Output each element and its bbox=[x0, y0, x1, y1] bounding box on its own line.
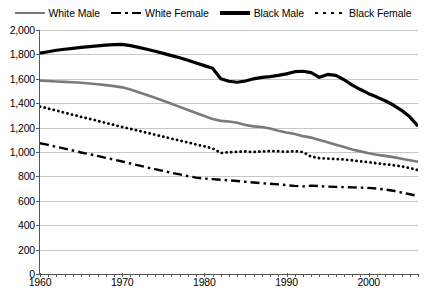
line-chart: White Male White Female Black Male Black… bbox=[0, 0, 426, 299]
x-axis-tick bbox=[56, 274, 57, 277]
legend-label-white-male: White Male bbox=[49, 8, 101, 19]
legend-swatch-black-female bbox=[315, 8, 345, 18]
x-axis-tick bbox=[311, 274, 312, 277]
x-axis-tick bbox=[147, 274, 148, 277]
x-axis-tick bbox=[155, 274, 156, 277]
y-axis-tick-label: 1,000 bbox=[0, 147, 35, 157]
x-axis-tick bbox=[254, 274, 255, 277]
legend-item-black-male[interactable]: Black Male bbox=[220, 8, 304, 19]
x-axis-tick bbox=[229, 274, 230, 277]
x-axis-tick bbox=[139, 274, 140, 277]
x-axis-tick bbox=[163, 274, 164, 277]
x-axis-tick bbox=[81, 274, 82, 277]
x-axis-tick-label: 1990 bbox=[275, 277, 298, 288]
legend-swatch-white-male bbox=[15, 8, 45, 18]
x-axis-tick-label: 1960 bbox=[29, 277, 52, 288]
x-axis-tick-label: 1970 bbox=[111, 277, 134, 288]
x-axis-tick bbox=[336, 274, 337, 277]
x-axis-tick bbox=[319, 274, 320, 277]
x-axis-tick-label: 1980 bbox=[193, 277, 216, 288]
x-axis-tick bbox=[171, 274, 172, 277]
x-axis-tick bbox=[410, 274, 411, 277]
x-axis-tick bbox=[245, 274, 246, 277]
chart-legend: White Male White Female Black Male Black… bbox=[0, 4, 426, 22]
x-axis-tick bbox=[73, 274, 74, 277]
x-axis-tick bbox=[303, 274, 304, 277]
y-axis-tick-label: 600 bbox=[0, 196, 35, 206]
x-axis-tick bbox=[385, 274, 386, 277]
x-axis-tick bbox=[65, 274, 66, 277]
x-axis-tick bbox=[237, 274, 238, 277]
x-axis-tick bbox=[188, 274, 189, 277]
y-axis-labels: 02004006008001,0001,2001,4001,6001,8002,… bbox=[0, 30, 426, 274]
x-axis-tick bbox=[418, 274, 419, 277]
x-axis-tick bbox=[89, 274, 90, 277]
x-axis-tick bbox=[180, 274, 181, 277]
legend-item-white-male[interactable]: White Male bbox=[15, 8, 101, 19]
x-axis-tick bbox=[270, 274, 271, 277]
x-axis-tick bbox=[393, 274, 394, 277]
y-axis-tick-label: 1,600 bbox=[0, 74, 35, 84]
legend-swatch-black-male bbox=[220, 8, 250, 18]
y-axis-tick-label: 200 bbox=[0, 245, 35, 255]
y-axis-tick-label: 1,800 bbox=[0, 49, 35, 59]
legend-swatch-white-female bbox=[111, 8, 141, 18]
legend-label-white-female: White Female bbox=[145, 8, 209, 19]
x-axis-tick bbox=[344, 274, 345, 277]
y-axis-tick-label: 1,400 bbox=[0, 98, 35, 108]
x-axis-tick bbox=[328, 274, 329, 277]
y-axis-tick-label: 2,000 bbox=[0, 25, 35, 35]
x-axis-tick bbox=[262, 274, 263, 277]
x-axis-tick bbox=[221, 274, 222, 277]
x-axis-tick bbox=[402, 274, 403, 277]
x-axis-tick bbox=[352, 274, 353, 277]
legend-label-black-male: Black Male bbox=[254, 8, 304, 19]
x-axis-tick bbox=[98, 274, 99, 277]
legend-item-white-female[interactable]: White Female bbox=[111, 8, 209, 19]
x-axis-tick bbox=[106, 274, 107, 277]
x-axis-tick-label: 2000 bbox=[357, 277, 380, 288]
legend-label-black-female: Black Female bbox=[349, 8, 411, 19]
y-axis-tick-label: 800 bbox=[0, 171, 35, 181]
y-axis-tick-label: 400 bbox=[0, 220, 35, 230]
legend-item-black-female[interactable]: Black Female bbox=[315, 8, 411, 19]
y-axis-tick-label: 1,200 bbox=[0, 123, 35, 133]
x-axis-labels: 19601970198019902000 bbox=[40, 277, 418, 293]
